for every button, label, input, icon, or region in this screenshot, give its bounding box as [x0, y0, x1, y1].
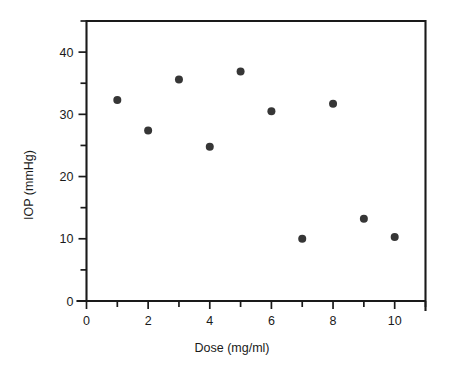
x-tick-label-0: 0	[83, 314, 90, 328]
scatter-plot-figure: 0246810 010203040 1, 32.32, 27.43, 35.64…	[0, 0, 452, 371]
data-point: 3, 35.6	[175, 75, 183, 83]
data-point: 2, 27.4	[144, 127, 152, 135]
y-axis-title: IOP (mmHg)	[22, 150, 36, 220]
y-axis-ticks	[79, 21, 87, 301]
data-point: 5, 36.9	[237, 67, 245, 75]
y-tick-label-10: 10	[60, 232, 74, 246]
x-axis-ticks	[87, 301, 426, 309]
x-tick-label-10: 10	[388, 314, 402, 328]
y-tick-label-20: 20	[60, 170, 74, 184]
y-tick-label-0: 0	[67, 295, 74, 309]
data-point: 4, 24.8	[206, 143, 214, 151]
data-point-series: 1, 32.32, 27.43, 35.64, 24.85, 36.96, 30…	[113, 67, 398, 242]
plot-canvas: 0246810 010203040 1, 32.32, 27.43, 35.64…	[0, 0, 452, 371]
y-tick-label-30: 30	[60, 108, 74, 122]
y-axis-tick-labels: 010203040	[60, 46, 74, 309]
data-point: 7, 10	[298, 235, 306, 243]
x-tick-label-8: 8	[330, 314, 337, 328]
x-tick-label-4: 4	[206, 314, 213, 328]
x-tick-label-2: 2	[145, 314, 152, 328]
x-axis-title: Dose (mg/ml)	[194, 341, 269, 355]
data-point: 9, 13.2	[360, 215, 368, 223]
axis-frame	[78, 21, 426, 310]
x-axis-tick-labels: 0246810	[83, 314, 402, 328]
y-tick-label-40: 40	[60, 46, 74, 60]
data-point: 8, 31.7	[329, 100, 337, 108]
data-point: 10, 10.3	[391, 233, 399, 241]
data-point: 6, 30.5	[267, 107, 275, 115]
data-point: 1, 32.3	[113, 96, 121, 104]
x-tick-label-6: 6	[268, 314, 275, 328]
